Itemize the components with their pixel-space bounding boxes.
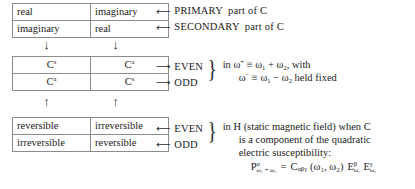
up-arrow-icon: ↑ — [81, 95, 150, 108]
parity-even-row: ⟶EVEN — [156, 58, 203, 74]
cond2-mid: − ω — [271, 72, 289, 83]
down-arrow-icon: ↓ — [12, 38, 81, 51]
parity-even-row: ⟵EVEN — [156, 120, 203, 136]
cell-c-r0c0: Cs — [13, 57, 91, 74]
table-row: Cs Ca — [13, 57, 169, 74]
cond-pre: in ω — [223, 59, 241, 70]
condition-line-1: in ω+ ≡ ω1 + ω2, with — [223, 58, 337, 71]
annotation-secondary-tail: part of C — [245, 22, 284, 33]
parity-even-label: EVEN — [174, 121, 203, 137]
parity-odd-label: ODD — [174, 137, 197, 153]
parity-odd-label: ODD — [174, 75, 197, 91]
table-row: Ca Cs — [13, 74, 169, 91]
c-superscript: s — [132, 75, 135, 82]
c-superscript: a — [54, 75, 57, 82]
annotation-parity-frequency: ⟶EVEN ⟶ODD } in ω+ ≡ ω1 + ω2, with ω− ≡ … — [156, 58, 337, 90]
annotation-parity-magnetic: ⟵EVEN ⟵ODD } in H (static magnetic field… — [156, 120, 376, 174]
left-arrow-icon: ⟵ — [156, 121, 169, 137]
c-base: C — [47, 59, 54, 70]
cell-rev-r0c0: reversible — [13, 118, 91, 135]
table-row: reversible irreversible — [13, 118, 169, 135]
diagram-canvas: real imaginary imaginary real ⟵PRIMARYpa… — [0, 0, 415, 189]
cell-rev-r1c0: irreversible — [13, 135, 91, 152]
parity-condition-bottom: in H (static magnetic field) when C is a… — [223, 120, 377, 174]
magnetic-line-1: in H (static magnetic field) when C — [223, 120, 377, 133]
formula-args: (ω₁, ω₂) — [310, 160, 343, 174]
brace-bottom: } — [208, 116, 217, 146]
condition-line-2: ω− ≡ ω1 − ω2 held fixed — [223, 71, 337, 84]
formula-p-indices: αω₁ + ω₂ — [256, 161, 276, 173]
right-arrow-icon: ⟶ — [156, 75, 169, 91]
annotation-primary-label: PRIMARY — [174, 6, 223, 17]
magnetic-line-3: electric susceptibility: — [223, 146, 377, 159]
cond-post: ≡ ω — [244, 59, 262, 70]
formula-e2-sub: ω₂ — [370, 167, 377, 173]
table-complex-parts: real imaginary imaginary real — [12, 3, 169, 38]
c-base: C — [125, 59, 132, 70]
formula-p-sub: ω₁ + ω₂ — [256, 167, 276, 173]
table-row: real imaginary — [13, 4, 169, 21]
cell-complex-r1c0: imaginary — [13, 21, 91, 38]
formula-equals: = — [280, 160, 286, 174]
cond2-end: held fixed — [292, 72, 337, 83]
cell-c-r1c0: Ca — [13, 74, 91, 91]
annotation-primary: ⟵PRIMARYpart of C — [156, 6, 267, 17]
c-base: C — [125, 76, 132, 87]
c-superscript: s — [54, 58, 57, 65]
annotation-primary-tail: part of C — [228, 6, 267, 17]
parity-labels-top: ⟶EVEN ⟶ODD — [156, 58, 203, 90]
left-arrow-icon: ⟵ — [156, 23, 169, 33]
parity-even-label: EVEN — [174, 59, 203, 75]
left-arrow-icon: ⟵ — [156, 7, 169, 17]
cond2-post: ≡ ω — [249, 72, 267, 83]
table-c-symmetry: Cs Ca Ca Cs — [12, 56, 169, 91]
cell-complex-r0c0: real — [13, 4, 91, 21]
table-row: imaginary real — [13, 21, 169, 38]
magnetic-line-2: is a component of the quadratic — [223, 133, 377, 146]
parity-condition-top: in ω+ ≡ ω1 + ω2, with ω− ≡ ω1 − ω2 held … — [223, 58, 337, 84]
c-base: C — [47, 76, 54, 87]
cond2-pre: ω — [239, 72, 246, 83]
c-superscript: a — [132, 58, 135, 65]
up-arrow-icon: ↑ — [12, 95, 81, 108]
left-arrow-icon: ⟵ — [156, 137, 169, 153]
connector-down-arrows: ↓ ↓ — [12, 38, 150, 51]
parity-labels-bottom: ⟵EVEN ⟵ODD — [156, 120, 203, 152]
annotation-secondary-label: SECONDARY — [174, 22, 239, 33]
down-arrow-icon: ↓ — [81, 38, 150, 51]
formula-e1-sub: ω₁ — [354, 167, 361, 173]
cond-end: , with — [287, 59, 311, 70]
parity-odd-row: ⟵ODD — [156, 136, 203, 152]
table-row: irreversible reversible — [13, 135, 169, 152]
susceptibility-formula: Pαω₁ + ω₂=Cαβγ(ω₁, ω₂)Eβω₁Eγω₂ — [223, 159, 377, 174]
annotation-secondary: ⟵SECONDARYpart of C — [156, 22, 284, 33]
formula-c-sub: αβγ — [297, 165, 307, 172]
formula-e2-indices: γω₂ — [370, 161, 377, 173]
table-reversibility: reversible irreversible irreversible rev… — [12, 117, 169, 152]
formula-e1-indices: βω₁ — [354, 161, 361, 173]
parity-odd-row: ⟶ODD — [156, 74, 203, 90]
right-arrow-icon: ⟶ — [156, 59, 169, 75]
connector-up-arrows: ↑ ↑ — [12, 95, 150, 108]
brace-top: } — [208, 54, 217, 84]
cond-mid: + ω — [265, 59, 283, 70]
